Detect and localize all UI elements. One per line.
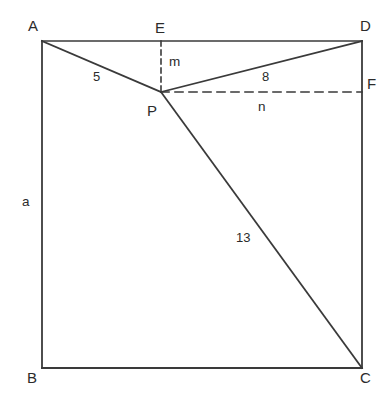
vertex-label-d: D: [360, 18, 371, 33]
length-label-n: n: [258, 100, 266, 114]
segment-pd: [161, 41, 362, 92]
length-label-pd: 8: [262, 70, 269, 83]
vertex-label-f: F: [367, 76, 376, 91]
segment-ap: [42, 41, 161, 92]
length-label-m: m: [169, 55, 180, 69]
length-label-pc: 13: [236, 231, 250, 244]
vertex-label-p: P: [147, 103, 157, 118]
segment-pc: [161, 92, 362, 368]
length-label-a: a: [22, 195, 30, 209]
vertex-label-c: C: [360, 370, 371, 385]
vertex-label-e: E: [155, 20, 165, 35]
geometry-figure: A D B C E P F 5 8 13 m n a: [0, 0, 390, 406]
diagram-canvas: [0, 0, 390, 406]
length-label-ap: 5: [93, 70, 100, 83]
vertex-label-b: B: [27, 370, 37, 385]
vertex-label-a: A: [28, 18, 38, 33]
